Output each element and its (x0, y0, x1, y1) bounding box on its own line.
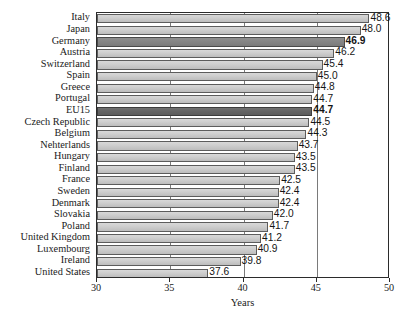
bar (97, 199, 279, 208)
bar (97, 234, 261, 243)
bar-row (97, 84, 388, 93)
value-label: 45.4 (324, 59, 344, 69)
value-label: 46.9 (346, 36, 366, 46)
bar (97, 14, 369, 23)
value-label: 45.0 (318, 71, 338, 81)
bar-row (97, 14, 388, 23)
value-label: 42.5 (281, 175, 301, 185)
value-label: 46.2 (335, 47, 355, 57)
bar-row (97, 130, 388, 139)
bar (97, 153, 295, 162)
x-tick-label: 45 (311, 283, 321, 293)
x-tick-label: 35 (164, 283, 174, 293)
value-label: 40.9 (258, 244, 278, 254)
value-label: 48.6 (370, 13, 390, 23)
bar-row (97, 222, 388, 231)
bar-row (97, 118, 388, 127)
bar (97, 269, 208, 278)
bar (97, 49, 334, 58)
value-label: 43.5 (296, 152, 316, 162)
bar (97, 245, 257, 254)
bar-row (97, 26, 388, 35)
bar (97, 84, 314, 93)
bar-row (97, 199, 388, 208)
bar (97, 257, 241, 266)
value-label: 44.8 (315, 82, 335, 92)
value-label: 43.7 (299, 140, 319, 150)
bar-row (97, 72, 388, 81)
bar-row (97, 188, 388, 197)
bar (97, 130, 306, 139)
bar-row (97, 95, 388, 104)
value-label: 44.5 (310, 117, 330, 127)
value-label: 48.0 (362, 24, 382, 34)
x-tick-label: 50 (384, 283, 394, 293)
value-label: 41.7 (269, 221, 289, 231)
category-label: United States (0, 266, 90, 279)
bar (97, 176, 280, 185)
bar-row (97, 141, 388, 150)
bar (97, 95, 312, 104)
value-label: 42.4 (280, 198, 300, 208)
bar (97, 107, 312, 116)
bar (97, 222, 268, 231)
value-label: 44.7 (313, 94, 333, 104)
x-axis-title: Years (96, 297, 389, 308)
bar (97, 188, 279, 197)
bar-chart: ItalyJapanGermanyAustriaSwitzerlandSpain… (0, 0, 400, 332)
bar-row (97, 234, 388, 243)
bar-row (97, 245, 388, 254)
x-tick-label: 30 (91, 283, 101, 293)
bar (97, 72, 317, 81)
value-label: 37.6 (209, 267, 229, 277)
bar (97, 60, 323, 69)
value-label: 44.3 (307, 128, 327, 138)
value-label: 44.7 (313, 105, 333, 115)
bar-row (97, 176, 388, 185)
bar-row (97, 37, 388, 46)
value-label: 39.8 (242, 256, 262, 266)
x-tick-label: 40 (237, 283, 247, 293)
value-label: 42.0 (274, 209, 294, 219)
value-label: 43.5 (296, 163, 316, 173)
bar (97, 118, 309, 127)
bar (97, 211, 273, 220)
value-label: 41.2 (262, 233, 282, 243)
category-label-column: ItalyJapanGermanyAustriaSwitzerlandSpain… (0, 12, 93, 278)
bar (97, 26, 361, 35)
bar-row (97, 153, 388, 162)
bar-row (97, 60, 388, 69)
bar-row (97, 107, 388, 116)
bar (97, 165, 295, 174)
bar-row (97, 165, 388, 174)
bar (97, 37, 345, 46)
bar (97, 141, 298, 150)
value-label: 42.4 (280, 186, 300, 196)
bar-row (97, 269, 388, 278)
bar-row (97, 211, 388, 220)
